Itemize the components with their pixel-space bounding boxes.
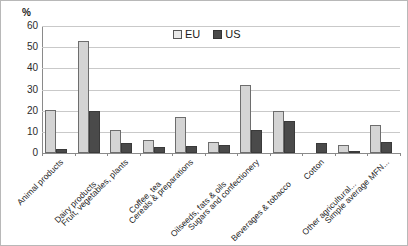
bar-group [270,26,303,153]
bar-chart: % 6050403020100 EU US Animal productsDai… [0,0,408,246]
bar-group [107,26,140,153]
y-axis-tick-label: 30 [1,85,38,95]
plot-area [42,26,400,153]
bar-group [302,26,335,153]
bar-eu [240,85,251,153]
bar-group [42,26,75,153]
bar-group [335,26,368,153]
bar-eu [110,130,121,153]
bar-group [172,26,205,153]
y-axis-tick-label: 10 [1,127,38,137]
bar-eu [143,140,154,153]
legend-label-eu: EU [185,28,200,40]
light-square-swatch-icon [173,30,182,39]
bar-group [237,26,270,153]
bar-group [75,26,108,153]
bar-eu [338,145,349,153]
bar-us [186,146,197,153]
legend-item-eu: EU [173,28,200,40]
bar-eu [208,142,219,153]
bar-us [56,149,67,153]
y-axis-tick-labels: 6050403020100 [1,26,38,153]
bar-group [205,26,238,153]
bar-eu [175,117,186,153]
bar-eu [273,111,284,153]
dark-square-swatch-icon [213,30,222,39]
bar-us [349,151,360,153]
bar-eu [370,125,381,153]
legend-item-us: US [213,28,240,40]
bar-us [219,145,230,153]
bar-us [316,143,327,153]
y-axis-tick-label: 60 [1,21,38,31]
bar-us [121,143,132,153]
bar-group [140,26,173,153]
y-axis-tick-label: 40 [1,63,38,73]
bar-eu [45,110,56,153]
y-axis-unit-label: % [22,7,31,18]
bar-us [154,147,165,153]
bar-eu [78,41,89,153]
x-axis-tick-labels: Animal productsDairy productsFruit, vege… [1,154,408,246]
bar-us [89,111,100,153]
legend-label-us: US [225,28,240,40]
chart-legend: EU US [173,28,241,40]
y-axis-tick-label: 50 [1,42,38,52]
y-axis-tick-label: 20 [1,106,38,116]
bar-group [367,26,400,153]
bar-us [381,142,392,153]
bar-us [284,121,295,153]
bar-us [251,130,262,153]
